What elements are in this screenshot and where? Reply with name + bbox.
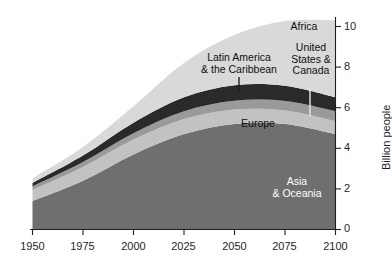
x-tick-label-1975: 1975 <box>60 240 105 252</box>
united-states-line-1: United <box>288 42 334 54</box>
y-tick-label-10: 10 <box>344 20 356 32</box>
x-tick-label-2000: 2000 <box>111 240 156 252</box>
x-tick-label-2050: 2050 <box>212 240 257 252</box>
series-label-asia-oceania: Asia & Oceania <box>258 176 336 199</box>
x-tick-label-2025: 2025 <box>161 240 206 252</box>
latin-america-line-1: Latin America <box>182 52 296 64</box>
y-axis-title: Billion people <box>380 105 392 170</box>
series-label-europe: Europe <box>228 118 288 130</box>
x-tick-label-1950: 1950 <box>10 240 55 252</box>
x-tick-label-2100: 2100 <box>313 240 358 252</box>
united-states-line-3: Canada <box>288 65 334 77</box>
series-label-africa: Africa <box>282 21 326 33</box>
y-tick-label-6: 6 <box>344 101 350 113</box>
y-tick-label-0: 0 <box>344 222 350 234</box>
y-axis-ticks <box>336 27 341 230</box>
y-tick-label-2: 2 <box>344 182 350 194</box>
y-tick-label-8: 8 <box>344 60 350 72</box>
x-tick-label-2075: 2075 <box>262 240 307 252</box>
y-tick-label-4: 4 <box>344 141 350 153</box>
asia-line-2: & Oceania <box>258 188 336 200</box>
series-label-united-states-canada: United States & Canada <box>288 42 334 77</box>
latin-america-line-2: & the Caribbean <box>182 64 296 76</box>
x-axis-ticks <box>33 230 336 235</box>
asia-line-1: Asia <box>258 176 336 188</box>
series-label-latin-america: Latin America & the Caribbean Latin Amer… <box>182 52 296 75</box>
